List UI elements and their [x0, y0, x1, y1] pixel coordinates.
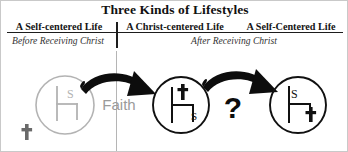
- circle-christ-centered: S: [153, 77, 209, 133]
- throne-occupant-label: S: [67, 87, 74, 101]
- question-mark-label: ?: [215, 91, 251, 125]
- phase-label-after: After Receiving Christ: [119, 34, 348, 48]
- three-kinds-of-lifestyles-diagram: Three Kinds of Lifestyles A Self-centere…: [0, 0, 348, 152]
- cross-icon-on-throne: [178, 84, 189, 100]
- cross-icon-outside: [22, 124, 33, 140]
- diagram-stage: S: [1, 48, 348, 152]
- throne-occupant-label: S: [291, 87, 298, 101]
- circle-self-centered-after: S: [270, 77, 326, 133]
- cross-icon-inside: [306, 107, 317, 122]
- vertical-divider-top: [116, 22, 118, 48]
- phase-label-before: Before Receiving Christ: [1, 34, 115, 48]
- phase-label-row: Before Receiving Christ After Receiving …: [1, 34, 348, 48]
- faith-label: Faith: [97, 96, 141, 113]
- page-title: Three Kinds of Lifestyles: [1, 2, 348, 18]
- header-horizontal-rule: [7, 32, 343, 33]
- self-marker-label: S: [191, 110, 197, 122]
